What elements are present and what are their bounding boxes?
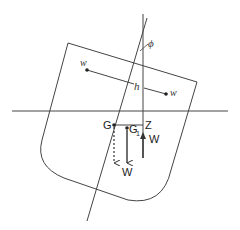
center-of-gravity-label: G (103, 119, 112, 131)
weight-left-label: w (80, 57, 87, 68)
shift-distance-label: h (134, 80, 140, 92)
inclined-centerline (87, 18, 147, 221)
shifted-center-subscript: 1 (136, 130, 140, 137)
weight-right-label: w (170, 87, 177, 98)
center-of-gravity-point (112, 123, 116, 127)
weight-shift-line-2 (144, 88, 166, 94)
weight-left-point (85, 68, 89, 72)
buoyancy-arrow-head (140, 132, 146, 139)
weight-right-point (164, 92, 168, 96)
heel-angle-leader (140, 44, 148, 51)
weight-force-label: W (122, 166, 133, 178)
heel-angle-label: ϕ (148, 37, 154, 49)
buoyancy-force-label: W (149, 133, 160, 145)
weight-shift-line-1 (87, 70, 134, 84)
stability-diagram: ϕ w w h G G 1 Z W W (0, 0, 240, 230)
hull-outline (41, 43, 197, 201)
righting-point-label: Z (145, 119, 152, 131)
